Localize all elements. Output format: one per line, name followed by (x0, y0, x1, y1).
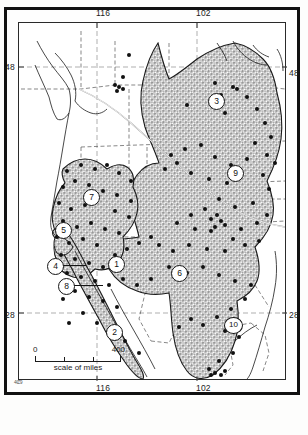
scale-max-label: 400 (112, 345, 125, 354)
map-graphic (19, 23, 287, 381)
latitude-label-right-48: 48 (289, 68, 299, 78)
scale-caption: scale of miles (33, 363, 123, 372)
map-key-5[interactable]: 5 (55, 222, 72, 239)
map-key-6[interactable]: 6 (171, 265, 188, 282)
map-key-leader-8 (73, 285, 103, 286)
map-key-2[interactable]: 2 (106, 324, 123, 341)
map-key-3[interactable]: 3 (208, 93, 225, 110)
latitude-label-right-28: 28 (289, 310, 299, 320)
map-key-1[interactable]: 1 (108, 256, 125, 273)
scale-endpoint-labels: 0 400 (33, 345, 125, 356)
map-key-9[interactable]: 9 (227, 165, 244, 182)
map-key-7[interactable]: 7 (83, 189, 100, 206)
distribution-map-figure: 116 102 116 102 48 48 28 28 4Ȼ9 0 400 sc… (0, 0, 308, 435)
longitude-label-top-102: 102 (196, 8, 211, 18)
map-key-leader-4 (62, 265, 86, 266)
map-key-4[interactable]: 4 (47, 258, 64, 275)
scale-bar-graphic (35, 356, 121, 362)
scale-min-label: 0 (33, 345, 37, 354)
plate-corner-mark: 4Ȼ9 (14, 379, 22, 385)
latitude-label-left-28: 28 (5, 310, 15, 320)
longitude-label-top-116: 116 (96, 8, 110, 18)
latitude-label-left-48: 48 (5, 62, 15, 72)
longitude-label-bottom-102: 102 (196, 383, 211, 393)
longitude-label-bottom-116: 116 (96, 383, 110, 393)
map-key-8[interactable]: 8 (58, 278, 75, 295)
map-neatline (18, 22, 286, 380)
scale-bar: 0 400 scale of miles (33, 345, 125, 372)
map-key-10[interactable]: 10 (224, 317, 243, 334)
